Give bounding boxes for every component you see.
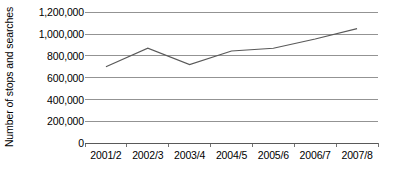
plot-area — [0, 0, 394, 178]
gridlines — [85, 12, 378, 143]
x-axis-tick-marks — [85, 143, 378, 147]
line-chart: Number of stops and searches 1,200,000 1… — [0, 0, 394, 178]
